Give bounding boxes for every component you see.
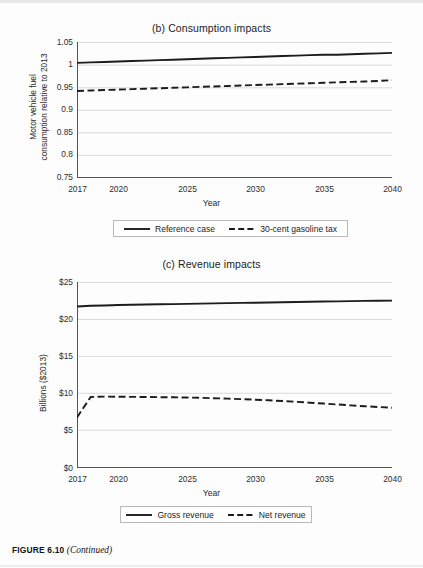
panel-b-plot-area [77,42,392,178]
panel-b-ytick-0: 1.05 [46,37,73,47]
panel-b-xtick-1: 2020 [103,184,134,194]
figure-caption: FIGURE 6.10 (Continued) [12,545,112,555]
panel-b-y-axis-title-line1: Motor vehicle fuel [28,74,38,140]
panel-c-title: (c) Revenue impacts [0,258,423,270]
panel-c-xtick-2: 2025 [172,474,203,484]
panel-b-svg [77,42,392,178]
panel-c-series-gross-revenue [77,301,392,307]
panel-b-title: (b) Consumption impacts [0,22,423,34]
panel-b-legend-item-reference-case[interactable]: Reference case [124,224,215,234]
panel-c-xtick-0: 2017 [62,474,93,484]
panel-c-ytick-2: $15 [46,351,73,361]
panel-b-ytick-5: 0.8 [46,149,73,159]
panel-c-xtick-1: 2020 [103,474,134,484]
panel-b-xtick-0: 2017 [62,184,93,194]
panel-c-ytick-0: $25 [46,277,73,287]
dashed-line-icon [228,511,254,519]
panel-b-series-gasoline-tax [77,80,392,91]
panel-b-ytick-6: 0.75 [46,172,73,182]
panel-c-x-axis-title: Year [0,488,423,498]
panel-c-svg [77,282,392,468]
figure-caption-number: FIGURE 6.10 [12,545,64,555]
panel-c-legend-item-gross-revenue[interactable]: Gross revenue [126,510,213,520]
panel-c-ytick-3: $10 [46,388,73,398]
panel-c-ytick-5: $0 [46,463,73,473]
panel-b-gridlines [77,43,392,156]
panel-c-legend-item-net-revenue[interactable]: Net revenue [228,510,306,520]
panel-b-ytick-4: 0.85 [46,127,73,137]
panel-b-legend: Reference case 30-cent gasoline tax [113,220,348,237]
figure-page: (b) Consumption impacts Motor vehicle fu… [0,0,423,568]
panel-b-legend-label-1: 30-cent gasoline tax [260,224,337,234]
panel-b-x-axis-title: Year [0,198,423,208]
panel-c-legend: Gross revenue Net revenue [120,506,312,523]
panel-b-ytick-2: 0.95 [46,82,73,92]
dashed-line-icon [229,225,255,233]
panel-c-legend-label-1: Net revenue [259,510,306,520]
panel-c-xtick-3: 2030 [240,474,271,484]
panel-b-legend-label-0: Reference case [155,224,215,234]
panel-b-xtick-4: 2035 [309,184,340,194]
panel-c-legend-label-0: Gross revenue [157,510,213,520]
panel-c-y-axis-title-line1: Billions ($2013) [38,354,48,412]
panel-c-plot-area [77,282,392,468]
figure-caption-continued: (Continued) [67,545,112,555]
panel-b-series-reference-case [77,53,392,63]
panel-revenue-impacts: (c) Revenue impacts Billions ($2013) $25… [0,248,423,538]
panel-c-xtick-4: 2035 [309,474,340,484]
panel-b-ytick-3: 0.9 [46,104,73,114]
panel-c-ytick-1: $20 [46,314,73,324]
panel-b-legend-item-gasoline-tax[interactable]: 30-cent gasoline tax [229,224,337,234]
solid-line-icon [126,511,152,519]
panel-b-xtick-5: 2040 [377,184,408,194]
page-bottom-rule [0,565,423,567]
panel-c-series-net-revenue [77,397,392,418]
panel-c-ytick-4: $5 [46,425,73,435]
panel-b-ytick-1: 1 [46,59,73,69]
solid-line-icon [124,225,150,233]
panel-b-xtick-2: 2025 [172,184,203,194]
panel-consumption-impacts: (b) Consumption impacts Motor vehicle fu… [0,0,423,248]
panel-b-xtick-3: 2030 [240,184,271,194]
panel-c-xtick-5: 2040 [377,474,408,484]
